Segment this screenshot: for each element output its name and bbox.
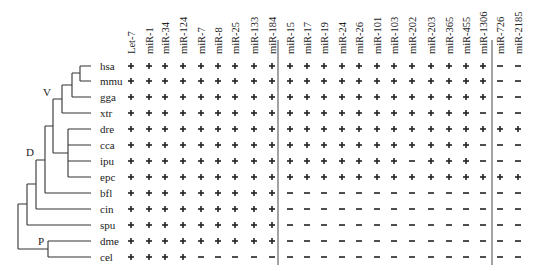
- present-mark-hsa-mir-25: [232, 63, 238, 69]
- present-mark-ipu-mir-103: [391, 158, 397, 164]
- present-mark-cin-mir-1: [146, 206, 152, 212]
- present-mark-epc-mir-184: [269, 174, 275, 180]
- present-mark-cca-mir-25: [232, 142, 238, 148]
- present-mark-dre-mir-455: [463, 126, 469, 132]
- present-mark-epc-mir-1: [146, 174, 152, 180]
- present-mark-bfl-mir-34: [162, 190, 168, 196]
- present-mark-dre-mir-365: [446, 126, 452, 132]
- present-mark-bfl-mir-133: [251, 190, 257, 196]
- species-label-gga: gga: [100, 91, 116, 103]
- present-mark-dre-mir-26: [356, 126, 362, 132]
- present-mark-epc-mir-2185: [515, 174, 521, 180]
- present-mark-dre-mir-19: [321, 126, 327, 132]
- present-mark-ipu-mir-101: [374, 158, 380, 164]
- present-mark-mmu-mir-25: [232, 78, 238, 84]
- present-mark-cin-mir-8: [215, 206, 221, 212]
- present-mark-hsa-mir-101: [374, 63, 380, 69]
- present-mark-xtr-mir-203: [428, 110, 434, 116]
- present-mark-hsa-mir-184: [269, 63, 275, 69]
- present-mark-cin-mir-7: [198, 206, 204, 212]
- present-mark-hsa-mir-202: [409, 63, 415, 69]
- branch-hsa-mmu: [80, 66, 91, 81]
- present-mark-mmu-mir-455: [463, 78, 469, 84]
- present-mark-dre-mir-15: [287, 126, 293, 132]
- present-mark-hsa-mir-26: [356, 63, 362, 69]
- present-mark-spu-mir-1: [146, 222, 152, 228]
- present-mark-mmu-mir-184: [269, 78, 275, 84]
- present-mark-mmu-mir-124: [180, 78, 186, 84]
- present-mark-cca-mir-184: [269, 142, 275, 148]
- present-mark-epc-mir-15: [287, 174, 293, 180]
- node-p-branch: [48, 241, 91, 257]
- present-mark-dre-mir-101: [374, 126, 380, 132]
- present-mark-ipu-mir-17: [304, 158, 310, 164]
- present-mark-hsa-mir-124: [180, 63, 186, 69]
- column-header-mir-103: miR-103: [389, 17, 400, 54]
- present-mark-gga-mir-101: [374, 94, 380, 100]
- present-mark-cca-mir-124: [180, 142, 186, 148]
- present-mark-cca-mir-455: [463, 142, 469, 148]
- present-mark-gga-mir-184: [269, 94, 275, 100]
- present-mark-epc-mir-455: [463, 174, 469, 180]
- node-label-p: P: [38, 235, 44, 247]
- column-header-mir-17: miR-17: [302, 22, 313, 54]
- present-mark-ipu-mir-34: [162, 158, 168, 164]
- present-mark-mmu-let-7: [128, 78, 134, 84]
- present-mark-dre-mir-1: [146, 126, 152, 132]
- present-mark-epc-mir-1306: [480, 174, 486, 180]
- present-mark-xtr-mir-24: [339, 110, 345, 116]
- present-mark-xtr-mir-124: [180, 110, 186, 116]
- present-mark-dme-mir-25: [232, 238, 238, 244]
- species-label-cin: cin: [100, 203, 114, 215]
- present-mark-gga-mir-24: [339, 94, 345, 100]
- column-header-mir-34: miR-34: [160, 21, 171, 54]
- present-mark-gga-mir-17: [304, 94, 310, 100]
- present-mark-cin-let-7: [128, 206, 134, 212]
- column-header-mir-7: miR-7: [196, 27, 207, 54]
- present-mark-xtr-mir-26: [356, 110, 362, 116]
- present-mark-gga-mir-103: [391, 94, 397, 100]
- present-mark-spu-mir-7: [198, 222, 204, 228]
- column-header-mir-203: miR-203: [426, 17, 437, 54]
- present-mark-epc-mir-203: [428, 174, 434, 180]
- present-mark-gga-let-7: [128, 94, 134, 100]
- column-header-mir-101: miR-101: [372, 17, 383, 54]
- present-mark-dme-mir-184: [269, 238, 275, 244]
- column-header-mir-19: miR-19: [319, 22, 330, 54]
- present-mark-epc-mir-726: [497, 174, 503, 180]
- present-mark-mmu-mir-24: [339, 78, 345, 84]
- present-mark-dre-mir-203: [428, 126, 434, 132]
- present-mark-hsa-mir-19: [321, 63, 327, 69]
- present-mark-cin-mir-34: [162, 206, 168, 212]
- present-mark-spu-mir-184: [269, 222, 275, 228]
- present-mark-ipu-mir-19: [321, 158, 327, 164]
- present-mark-epc-mir-8: [215, 174, 221, 180]
- present-mark-epc-mir-103: [391, 174, 397, 180]
- column-header-mir-133: miR-133: [249, 17, 260, 54]
- phylogenetic-tree: [18, 66, 91, 257]
- present-mark-cel-mir-1: [146, 254, 152, 260]
- present-mark-xtr-mir-15: [287, 110, 293, 116]
- present-mark-hsa-mir-133: [251, 63, 257, 69]
- present-mark-gga-mir-7: [198, 94, 204, 100]
- present-mark-xtr-mir-17: [304, 110, 310, 116]
- present-mark-ipu-mir-8: [215, 158, 221, 164]
- present-mark-ipu-mir-1: [146, 158, 152, 164]
- present-mark-mmu-mir-101: [374, 78, 380, 84]
- present-mark-cca-mir-26: [356, 142, 362, 148]
- present-mark-cin-mir-184: [269, 206, 275, 212]
- present-mark-hsa-mir-17: [304, 63, 310, 69]
- present-mark-gga-mir-203: [428, 94, 434, 100]
- present-mark-xtr-mir-133: [251, 110, 257, 116]
- present-mark-dre-mir-25: [232, 126, 238, 132]
- present-mark-epc-mir-19: [321, 174, 327, 180]
- node-d-branch: [36, 160, 91, 209]
- present-mark-ipu-mir-25: [232, 158, 238, 164]
- present-mark-hsa-mir-34: [162, 63, 168, 69]
- present-mark-cca-let-7: [128, 142, 134, 148]
- present-mark-spu-mir-8: [215, 222, 221, 228]
- branch-gga: [72, 73, 91, 97]
- present-mark-epc-let-7: [128, 174, 134, 180]
- present-mark-ipu-mir-184: [269, 158, 275, 164]
- present-mark-hsa-mir-365: [446, 63, 452, 69]
